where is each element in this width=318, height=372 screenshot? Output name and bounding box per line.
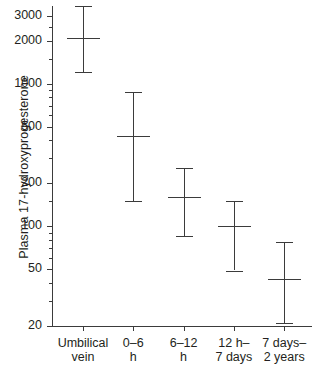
median-marker <box>117 136 150 137</box>
error-bar-cap-lower <box>176 236 193 237</box>
error-bar-cap-lower <box>276 323 293 324</box>
error-bar-cap-upper <box>176 168 193 169</box>
y-tick-label: 1000 <box>0 76 42 90</box>
error-bar-line <box>133 92 134 201</box>
median-marker <box>268 279 301 280</box>
y-tick-label: 3000 <box>0 8 42 22</box>
median-marker <box>67 38 100 39</box>
x-tick-label-line: 7 days– <box>247 336 318 350</box>
y-tick-label: 100 <box>0 218 42 232</box>
error-bar-cap-lower <box>226 271 243 272</box>
chart-figure: Plasma 17-hydroxyprogesterone 3000200010… <box>0 0 318 372</box>
error-bar-cap-upper <box>125 92 142 93</box>
error-bar-line <box>284 242 285 323</box>
error-bar-cap-lower <box>75 72 92 73</box>
error-bar-line <box>83 6 84 72</box>
y-tick-label: 50 <box>0 261 42 275</box>
y-tick-label: 2000 <box>0 33 42 47</box>
y-tick-label: 200 <box>0 175 42 189</box>
error-bar-cap-upper <box>226 201 243 202</box>
plot-area: 3000200010005002001005020 Umbilicalvein0… <box>52 6 312 327</box>
median-marker <box>168 197 201 198</box>
error-bar-line <box>234 201 235 270</box>
x-tick-label: 7 days–2 years <box>247 336 318 364</box>
median-marker <box>218 226 251 227</box>
error-bar-cap-upper <box>276 242 293 243</box>
error-bar-cap-upper <box>75 6 92 7</box>
x-tick-label-line: 2 years <box>247 350 318 364</box>
y-tick-label: 20 <box>0 318 42 332</box>
error-bar-cap-lower <box>125 201 142 202</box>
y-tick-label: 500 <box>0 119 42 133</box>
error-bar-line <box>184 168 185 236</box>
error-bar-series <box>52 6 312 327</box>
